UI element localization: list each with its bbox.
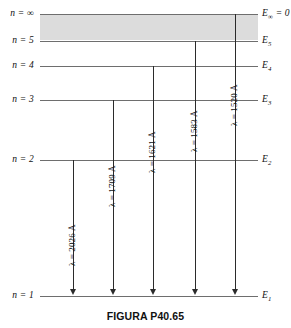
- wavelength-label-ninf-n1: λ = 1520 Å: [229, 84, 239, 126]
- e-label-5-subscript: 5: [268, 40, 272, 47]
- level-line-n-4: [40, 66, 258, 67]
- energy-level-diagram: n = ∞ n = 5 n = 4 n = 3 n = 2 n = 1 E∞ =…: [0, 0, 291, 328]
- wavelength-label-n2-n1: λ = 2026 Å: [67, 224, 77, 266]
- e-label-3-subscript: 3: [268, 99, 272, 106]
- figure-caption: FIGURA P40.65: [0, 310, 291, 322]
- e-label-3: E3: [262, 94, 272, 106]
- e-label-2: E2: [262, 154, 272, 166]
- wavelength-label-n5-n1: λ = 1583 Å: [189, 110, 199, 152]
- wavelength-label-n3-n1: λ = 1709 Å: [107, 165, 117, 207]
- e-label-1-subscript: 1: [268, 295, 272, 302]
- level-line-n-5: [40, 41, 258, 42]
- transition-arrow-head-n3-n1: [110, 289, 116, 295]
- n-label-4: n = 4: [0, 60, 34, 70]
- e-label-4: E4: [262, 60, 272, 72]
- n-label-infinity: n = ∞: [0, 8, 34, 18]
- e-label-2-subscript: 2: [268, 159, 272, 166]
- transition-arrow-shaft-n4-n1: [153, 66, 154, 290]
- e-label-infinity: E∞ = 0: [262, 8, 290, 20]
- n-label-2: n = 2: [0, 154, 34, 164]
- n-label-3: n = 3: [0, 94, 34, 104]
- e-label-infinity-suffix: = 0: [273, 8, 290, 18]
- n-label-1: n = 1: [0, 290, 34, 300]
- transition-arrow-head-ninf-n1: [232, 289, 238, 295]
- level-line-n-3: [40, 100, 258, 101]
- n-label-5: n = 5: [0, 35, 34, 45]
- level-line-n-infinity: [40, 14, 258, 15]
- transition-arrow-shaft-n5-n1: [195, 41, 196, 290]
- transition-arrow-shaft-ninf-n1: [235, 14, 236, 290]
- continuum-band: [40, 15, 258, 40]
- transition-arrow-head-n4-n1: [150, 289, 156, 295]
- e-label-4-subscript: 4: [268, 65, 272, 72]
- transition-arrow-head-n2-n1: [70, 289, 76, 295]
- level-line-n-1: [40, 296, 258, 297]
- e-label-5: E5: [262, 35, 272, 47]
- transition-arrow-head-n5-n1: [192, 289, 198, 295]
- e-label-1: E1: [262, 290, 272, 302]
- wavelength-label-n4-n1: λ = 1621 Å: [147, 131, 157, 173]
